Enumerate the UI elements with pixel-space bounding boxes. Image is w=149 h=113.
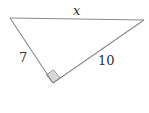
- right-leg-label: 10: [98, 53, 115, 68]
- left-leg-side: [10, 18, 53, 83]
- diagram-canvas: x 7 10: [0, 0, 149, 113]
- right-leg-side: [53, 20, 144, 83]
- triangle-diagram: x 7 10: [0, 0, 149, 113]
- hypotenuse-label: x: [73, 3, 81, 18]
- hypotenuse-side: [10, 18, 144, 20]
- left-leg-label: 7: [19, 50, 27, 65]
